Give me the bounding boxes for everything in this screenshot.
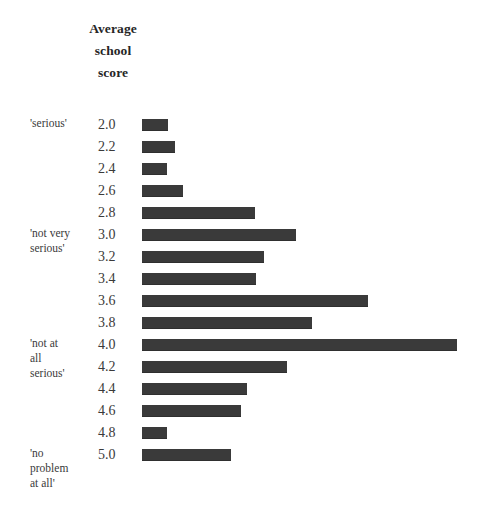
bar	[142, 405, 241, 417]
header-line-2: school	[86, 40, 140, 62]
bar-row: 4.6	[0, 402, 481, 424]
bar	[142, 427, 167, 439]
bar	[142, 251, 264, 263]
chart-page: Average school score 'serious'2.02.22.42…	[0, 0, 481, 522]
bar-row: 2.4	[0, 160, 481, 182]
bar	[142, 207, 255, 219]
bar-row: 4.8	[0, 424, 481, 446]
bar-track	[142, 229, 472, 241]
bar-track	[142, 163, 472, 175]
score-tick-label: 3.4	[98, 270, 134, 288]
bar	[142, 317, 312, 329]
bar-row: 4.4	[0, 380, 481, 402]
bar-row: 3.8	[0, 314, 481, 336]
bar	[142, 141, 175, 153]
category-label: 'serious'	[30, 116, 100, 131]
bar-row: 3.2	[0, 248, 481, 270]
score-tick-label: 4.4	[98, 380, 134, 398]
bar	[142, 119, 168, 131]
bar-rows: 'serious'2.02.22.42.62.8'not very seriou…	[0, 116, 481, 468]
bar-row: 3.4	[0, 270, 481, 292]
score-tick-label: 2.4	[98, 160, 134, 178]
score-tick-label: 4.0	[98, 336, 134, 354]
bar	[142, 383, 247, 395]
score-tick-label: 3.6	[98, 292, 134, 310]
bar-track	[142, 207, 472, 219]
bar	[142, 361, 287, 373]
bar-track	[142, 317, 472, 329]
header-line-3: score	[86, 62, 140, 84]
bar	[142, 163, 167, 175]
score-tick-label: 2.6	[98, 182, 134, 200]
score-tick-label: 2.8	[98, 204, 134, 222]
bar-track	[142, 449, 472, 461]
bar-row: 'no problem at all'5.0	[0, 446, 481, 468]
bar-row: 3.6	[0, 292, 481, 314]
bar-track	[142, 339, 472, 351]
bar-track	[142, 405, 472, 417]
bar-track	[142, 427, 472, 439]
bar	[142, 273, 256, 285]
category-label: 'no problem at all'	[30, 446, 100, 491]
bar	[142, 449, 231, 461]
score-tick-label: 5.0	[98, 446, 134, 464]
score-tick-label: 4.6	[98, 402, 134, 420]
bar-track	[142, 141, 472, 153]
bar-track	[142, 383, 472, 395]
score-tick-label: 3.8	[98, 314, 134, 332]
bar-row: 'not very serious'3.0	[0, 226, 481, 248]
bar-row: 2.2	[0, 138, 481, 160]
bar-track	[142, 295, 472, 307]
bar-row: 4.2	[0, 358, 481, 380]
bar-track	[142, 251, 472, 263]
header-line-1: Average	[86, 18, 140, 40]
bar-track	[142, 361, 472, 373]
bar-row: 'serious'2.0	[0, 116, 481, 138]
bar-row: 'not at all serious'4.0	[0, 336, 481, 358]
bar-track	[142, 273, 472, 285]
bar	[142, 295, 368, 307]
bar-row: 2.8	[0, 204, 481, 226]
bar-row: 2.6	[0, 182, 481, 204]
bar	[142, 185, 183, 197]
score-tick-label: 2.0	[98, 116, 134, 134]
score-tick-label: 3.0	[98, 226, 134, 244]
bar	[142, 339, 457, 351]
score-tick-label: 3.2	[98, 248, 134, 266]
score-tick-label: 4.8	[98, 424, 134, 442]
bar-track	[142, 119, 472, 131]
bar	[142, 229, 296, 241]
score-tick-label: 2.2	[98, 138, 134, 156]
bar-track	[142, 185, 472, 197]
chart-header: Average school score	[86, 18, 140, 84]
score-tick-label: 4.2	[98, 358, 134, 376]
